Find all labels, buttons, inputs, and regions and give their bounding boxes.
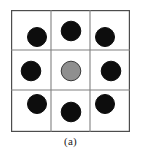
neighbor-middle-right-dot [101,61,121,81]
neighbor-bottom-left-dot [28,95,47,114]
center-pixel-dot [61,61,81,81]
figure-caption-label: (a) [0,134,141,148]
neighbor-bottom-right-dot [96,95,115,114]
circles-group [21,21,121,122]
figure-container: (a) [0,0,141,158]
neighbor-middle-left-dot [21,61,41,81]
neighbor-top-left-dot [28,28,47,47]
neighbor-top-center-dot [61,21,81,41]
neighbor-top-right-dot [96,28,115,47]
neighbor-bottom-center-dot [61,102,81,122]
